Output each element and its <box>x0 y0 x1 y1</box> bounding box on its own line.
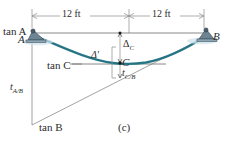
label-delta-c: ΔC <box>123 39 134 52</box>
label-span-left: 12 ft <box>62 9 81 19</box>
label-span-right: 12 ft <box>152 9 171 19</box>
dimension-group <box>32 9 204 33</box>
support-b-pin <box>204 28 208 32</box>
label-t-a-b: tA/B <box>10 82 23 95</box>
label-t-c-b: tC/B <box>122 68 135 81</box>
support-a-triangle <box>28 30 44 40</box>
label-delta-prime: Δ′ <box>91 50 99 60</box>
c-measurement-group <box>112 32 122 79</box>
diagram-canvas <box>0 0 227 141</box>
beam-deflection-figure: tan A A B tan C tan B 12 ft 12 ft ΔC Δ′ … <box>0 0 227 141</box>
label-part-designation: (c) <box>118 122 130 133</box>
label-point-b: B <box>213 31 220 42</box>
node-dot-top-c <box>119 32 122 35</box>
label-tan-c: tan C <box>47 60 71 71</box>
label-point-a: A <box>18 34 25 45</box>
support-a-pin <box>31 29 35 33</box>
label-tan-b: tan B <box>39 122 63 133</box>
support-a-base <box>26 40 46 42</box>
support-a <box>23 29 53 45</box>
